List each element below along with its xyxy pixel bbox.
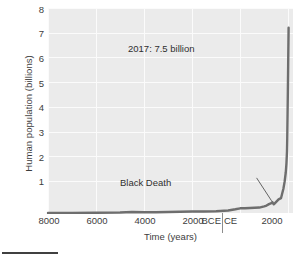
annotation-black-death: Black Death <box>120 178 171 188</box>
y-tick-1: 1 <box>30 177 44 187</box>
x-tick-8000-bce: 8000 <box>38 216 59 226</box>
x-tick-bce: BCE <box>201 216 221 226</box>
y-tick-7: 7 <box>30 29 44 39</box>
x-tick-2000-bce: 2000 <box>182 216 203 226</box>
annotation-2017-population: 2017: 7.5 billion <box>128 44 195 54</box>
y-tick-2: 2 <box>30 153 44 163</box>
x-axis-tick-labels: 8000 6000 4000 2000 BCE CE 2000 <box>0 216 301 232</box>
x-tick-2000-ce: 2000 <box>261 216 282 226</box>
y-tick-6: 6 <box>30 54 44 64</box>
population-growth-chart: Human population (billions) 8 7 6 5 4 3 … <box>0 0 301 261</box>
caption-rule <box>2 252 58 254</box>
x-tick-ce: CE <box>224 216 237 226</box>
black-death-leader-line <box>257 178 272 201</box>
y-tick-3: 3 <box>30 128 44 138</box>
x-axis-title: Time (years) <box>48 231 293 242</box>
x-tick-4000-bce: 4000 <box>134 216 155 226</box>
x-tick-6000-bce: 6000 <box>86 216 107 226</box>
y-tick-5: 5 <box>30 79 44 89</box>
y-tick-4: 4 <box>30 103 44 113</box>
y-tick-8: 8 <box>30 5 44 15</box>
